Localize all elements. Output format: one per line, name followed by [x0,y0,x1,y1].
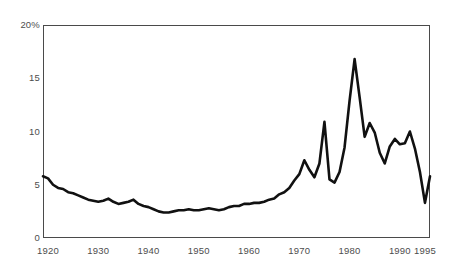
x-axis-tick-label: 1930 [87,246,109,256]
x-axis-tick-label: 1950 [188,246,210,256]
x-axis-tick-label: 1970 [288,246,310,256]
x-axis-tick-label: 1995 [414,246,436,256]
x-axis-tick-label: 1960 [238,246,260,256]
x-axis-tick-label: 1980 [339,246,361,256]
x-axis-tick-label: 1940 [138,246,160,256]
x-axis-labels: 192019301940195019601970198019901995 [0,0,454,274]
chart-container: 20%151050 192019301940195019601970198019… [0,0,454,274]
x-axis-tick-label: 1990 [389,246,411,256]
x-axis-tick-label: 1920 [37,246,59,256]
